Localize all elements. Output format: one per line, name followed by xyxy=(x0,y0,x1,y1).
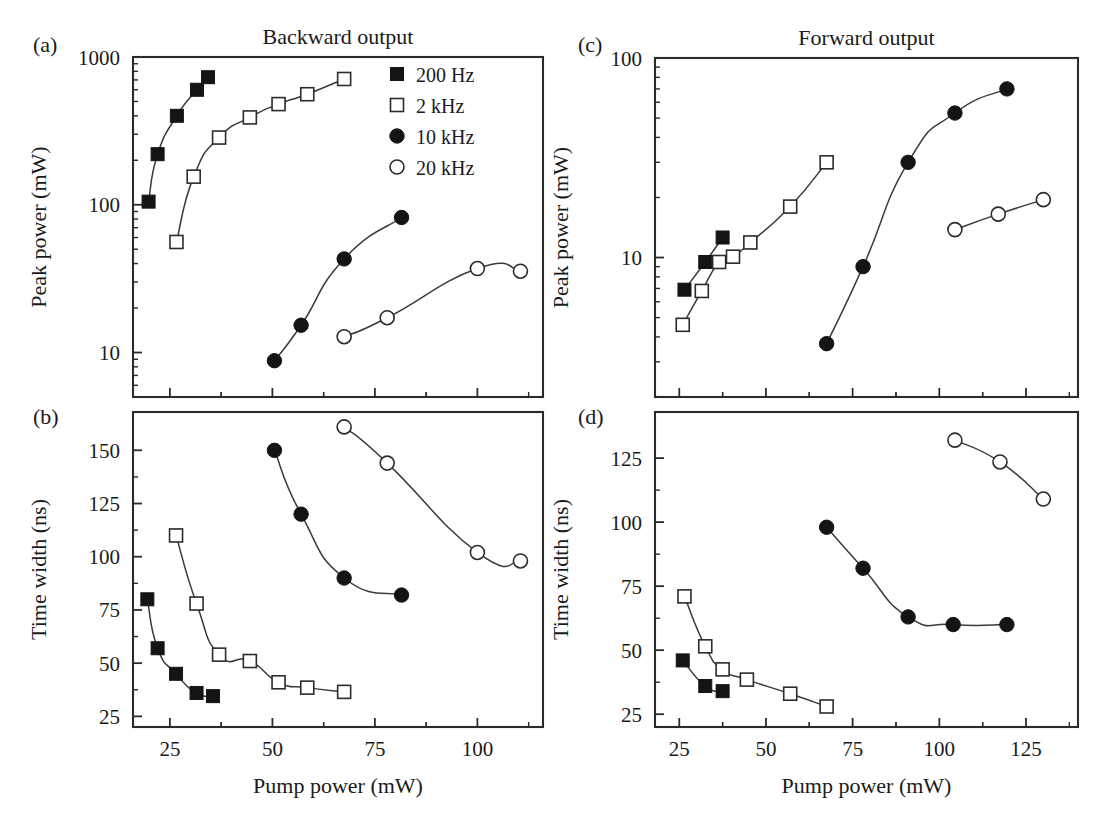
data-point-open-circle xyxy=(390,160,404,174)
data-point-filled-square xyxy=(699,680,712,693)
panel-a-curve-20-khz xyxy=(344,263,520,336)
panel-b-y-tick-label: 150 xyxy=(89,439,121,463)
panel-b-y-tick-label: 125 xyxy=(89,492,121,516)
data-point-open-square xyxy=(695,284,708,297)
data-point-open-square xyxy=(338,685,351,698)
data-point-filled-square xyxy=(151,642,164,655)
data-point-filled-square xyxy=(699,255,712,268)
data-point-filled-circle xyxy=(337,252,351,266)
data-point-filled-circle xyxy=(267,443,281,457)
panel-c-y-axis-title: Peak power (mW) xyxy=(548,147,573,308)
data-point-open-circle xyxy=(380,311,394,325)
panel-a-label: (a) xyxy=(33,32,57,57)
data-point-filled-circle xyxy=(819,336,833,350)
data-point-open-circle xyxy=(380,456,394,470)
panel-a-curve-2-khz xyxy=(176,79,344,242)
data-point-filled-circle xyxy=(294,318,308,332)
data-point-filled-square xyxy=(206,690,219,703)
data-point-open-square xyxy=(784,200,797,213)
data-point-open-square xyxy=(820,156,833,169)
panel-d-x-tick-label: 125 xyxy=(1010,737,1042,761)
data-point-filled-circle xyxy=(1000,82,1014,96)
data-point-open-circle xyxy=(513,264,527,278)
data-point-filled-circle xyxy=(294,507,308,521)
panel-c-curve-10-khz xyxy=(827,89,1007,344)
panel-d-x-tick-label: 100 xyxy=(924,737,956,761)
panel-d-y-tick-label: 100 xyxy=(611,511,643,535)
data-point-open-square xyxy=(716,663,729,676)
data-point-open-square xyxy=(744,236,757,249)
legend-label-10-khz: 10 kHz xyxy=(416,126,474,148)
legend-label-2-khz: 2 kHz xyxy=(416,95,464,117)
data-point-filled-square xyxy=(676,654,689,667)
data-point-open-circle xyxy=(470,545,484,559)
panel-d-y-axis-title: Time width (ns) xyxy=(548,499,573,640)
panel-a-y-tick-label: 10 xyxy=(99,341,120,365)
panel-c-label: (c) xyxy=(578,32,602,57)
data-point-open-square xyxy=(170,529,183,542)
panel-a-y-tick-label: 100 xyxy=(89,193,121,217)
panel-b-label: (b) xyxy=(33,404,59,429)
data-point-open-square xyxy=(190,597,203,610)
panel-b-plot-frame xyxy=(133,412,543,727)
panel-d-x-tick-label: 75 xyxy=(842,737,863,761)
data-point-open-square xyxy=(727,250,740,263)
panel-b-y-axis-title: Time width (ns) xyxy=(26,499,51,640)
data-point-open-square xyxy=(187,170,200,183)
panel-b-curve-20-khz xyxy=(344,427,520,567)
panel-d-x-tick-label: 50 xyxy=(755,737,776,761)
data-point-open-circle xyxy=(513,554,527,568)
data-point-filled-circle xyxy=(1000,617,1014,631)
data-point-filled-square xyxy=(170,667,183,680)
panel-c-y-tick-label: 100 xyxy=(611,47,643,71)
panel-c-y-tick-label: 10 xyxy=(621,246,642,270)
data-point-open-circle xyxy=(991,207,1005,221)
panel-a-y-axis-title: Peak power (mW) xyxy=(26,146,51,307)
data-point-filled-circle xyxy=(856,259,870,273)
panel-d-y-tick-label: 25 xyxy=(621,703,642,727)
data-point-filled-square xyxy=(170,109,183,122)
data-point-open-square xyxy=(699,640,712,653)
data-point-filled-circle xyxy=(946,617,960,631)
panel-b-x-axis-title: Pump power (mW) xyxy=(253,773,423,798)
panel-b-y-tick-label: 50 xyxy=(99,652,120,676)
data-point-filled-square xyxy=(190,83,203,96)
panel-d-y-tick-label: 50 xyxy=(621,639,642,663)
data-point-open-circle xyxy=(470,262,484,276)
panel-b-x-tick-label: 25 xyxy=(159,737,180,761)
data-point-filled-square xyxy=(141,593,154,606)
panel-d-label: (d) xyxy=(578,404,604,429)
data-point-open-square xyxy=(713,255,726,268)
panel-c-plot-frame xyxy=(655,58,1078,397)
data-point-open-square xyxy=(740,673,753,686)
data-point-open-square xyxy=(213,131,226,144)
panel-b-y-tick-label: 25 xyxy=(99,705,120,729)
data-point-filled-circle xyxy=(901,155,915,169)
data-point-filled-square xyxy=(142,195,155,208)
data-point-filled-square xyxy=(716,231,729,244)
data-point-open-square xyxy=(338,72,351,85)
data-point-open-square xyxy=(676,318,689,331)
panel-b-y-tick-label: 75 xyxy=(99,598,120,622)
data-point-open-square xyxy=(820,700,833,713)
panel-d-curve-10-khz xyxy=(827,527,1007,626)
data-point-open-square xyxy=(678,590,691,603)
panel-b-y-tick-label: 100 xyxy=(89,545,121,569)
figure-container: 101001000Peak power (mW)(a)Backward outp… xyxy=(0,0,1103,828)
data-point-open-square xyxy=(391,99,404,112)
data-point-filled-square xyxy=(716,685,729,698)
panel-d-x-axis-title: Pump power (mW) xyxy=(782,773,952,798)
panel-a-plot-frame xyxy=(133,57,543,397)
panel-b-x-tick-label: 75 xyxy=(364,737,385,761)
data-point-filled-circle xyxy=(390,129,404,143)
data-point-open-circle xyxy=(337,420,351,434)
data-point-filled-square xyxy=(190,686,203,699)
data-point-filled-square xyxy=(391,68,404,81)
data-point-open-square xyxy=(170,235,183,248)
data-point-open-circle xyxy=(1036,193,1050,207)
figure-svg: 101001000Peak power (mW)(a)Backward outp… xyxy=(0,0,1103,828)
panel-b-x-tick-label: 50 xyxy=(262,737,283,761)
data-point-filled-circle xyxy=(337,571,351,585)
data-point-filled-circle xyxy=(394,210,408,224)
data-point-open-square xyxy=(213,648,226,661)
